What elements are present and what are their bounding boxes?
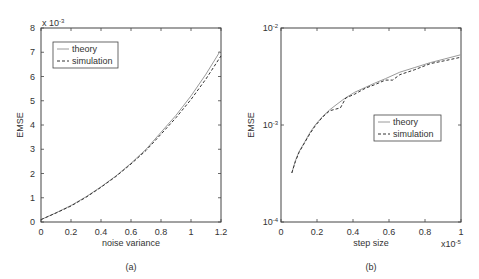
x-tick-label: 0 (38, 227, 43, 237)
x-tick-label: 1 (458, 227, 463, 237)
legend-simulation-label-a: simulation (72, 56, 113, 66)
x-tick-label: 0.8 (419, 227, 432, 237)
y-multiplier-a: x 10-3 (42, 18, 65, 28)
x-tick-label: 0.6 (125, 227, 138, 237)
y-tick-1e-4: 10-4 (263, 217, 279, 227)
x-tick-label: 0.6 (383, 227, 396, 237)
figure-svg: 00.20.40.60.811.2 012345678 x 10-3 noise… (0, 0, 479, 279)
caption-b: (b) (366, 262, 377, 272)
y-tick-labels-a: 012345678 (30, 23, 35, 227)
series-theory-b (292, 55, 461, 173)
y-tick-label: 0 (30, 217, 35, 227)
y-tick-label: 2 (30, 169, 35, 179)
series-simulation-a (41, 56, 221, 220)
x-tick-label: 0.4 (347, 227, 360, 237)
x-tick-label: 1.2 (215, 227, 228, 237)
x-tick-label: 0.8 (155, 227, 168, 237)
caption-a: (a) (126, 262, 137, 272)
x-tick-label: 0 (278, 227, 283, 237)
x-axis-label-b: step size (353, 238, 389, 248)
x-tick-label: 0.2 (311, 227, 324, 237)
legend-theory-label-a: theory (72, 44, 98, 54)
x-tick-labels-a: 00.20.40.60.811.2 (38, 227, 227, 237)
y-axis-label-b: EMSE (246, 112, 256, 138)
legend-a: theory simulation (53, 42, 118, 68)
panel-b-step-size-chart: 00.20.40.60.81 10-2 10-3 10-4 x10-5 step… (246, 23, 464, 272)
x-tick-label: 0.4 (95, 227, 108, 237)
legend-b: theory simulation (374, 115, 441, 141)
legend-simulation-label-b: simulation (393, 129, 434, 139)
y-tick-label: 3 (30, 144, 35, 154)
y-tick-labels-b: 10-2 10-3 10-4 (263, 23, 279, 227)
y-tick-label: 4 (30, 120, 35, 130)
panel-a-noise-variance-chart: 00.20.40.60.811.2 012345678 x 10-3 noise… (15, 18, 227, 272)
y-tick-1e-3: 10-3 (263, 120, 279, 130)
y-tick-label: 8 (30, 23, 35, 33)
y-tick-label: 7 (30, 47, 35, 57)
x-tick-label: 1 (188, 227, 193, 237)
legend-theory-label-b: theory (393, 117, 419, 127)
figure: 00.20.40.60.811.2 012345678 x 10-3 noise… (0, 0, 479, 279)
y-tick-label: 5 (30, 96, 35, 106)
x-axis-label-a: noise variance (102, 238, 160, 248)
x-tick-labels-b: 00.20.40.60.81 (278, 227, 463, 237)
x-tick-label: 0.2 (65, 227, 78, 237)
y-tick-label: 1 (30, 193, 35, 203)
y-axis-label-a: EMSE (15, 112, 25, 138)
x-multiplier-b: x10-5 (441, 239, 462, 249)
y-tick-1e-2: 10-2 (263, 23, 279, 33)
series-theory-a (41, 50, 221, 220)
y-tick-label: 6 (30, 72, 35, 82)
